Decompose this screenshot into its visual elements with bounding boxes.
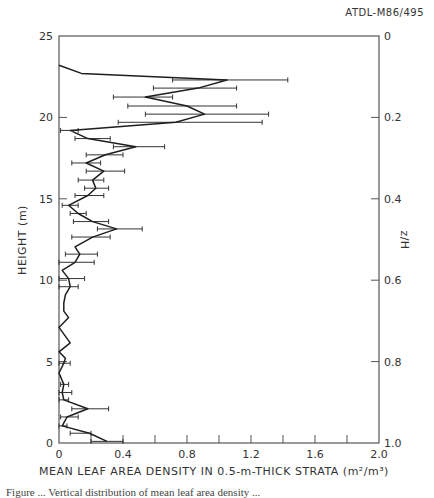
y-axis-label: HEIGHT (m) [16,205,29,275]
y-tick-label: 10 [39,274,53,287]
x-tick-label: 0.4 [114,448,132,461]
error-bars [59,77,288,443]
x-axis-tick-labels: 00.40.81.21.62.0 [56,448,388,461]
y2-axis-label: z/H [398,230,411,249]
x-axis-ticks [91,435,347,443]
figure-code: ATDL-M86/495 [345,7,424,18]
y2-tick-label: 0.2 [384,111,402,124]
plot-frame [59,36,379,443]
x-tick-label: 0.8 [178,448,196,461]
y-tick-label: 20 [39,111,53,124]
y2-tick-label: 1.0 [384,437,402,450]
y-tick-label: 5 [46,356,53,369]
x-tick-label: 0 [56,448,63,461]
y2-tick-label: 0.6 [384,274,402,287]
y2-tick-label: 0.8 [384,356,402,369]
y-tick-label: 15 [39,193,53,206]
figure-caption: Figure ... Vertical distribution of mean… [6,486,260,498]
x-tick-label: 1.6 [306,448,324,461]
y-tick-label: 0 [46,437,53,450]
y-tick-label: 25 [39,30,53,43]
x-tick-label: 1.2 [242,448,260,461]
y2-tick-label: 0.4 [384,193,402,206]
x-axis-label: MEAN LEAF AREA DENSITY IN 0.5-m-THICK ST… [39,465,389,478]
y2-tick-label: 0 [384,30,391,43]
y2-axis-ticks: 00.20.40.60.81.0 [371,30,402,450]
density-profile-line [59,65,227,441]
